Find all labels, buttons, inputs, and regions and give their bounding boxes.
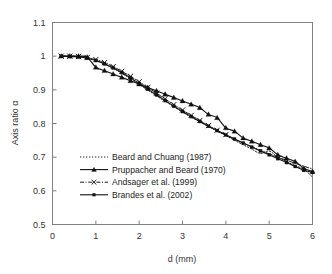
x-axis-title: d (mm) — [168, 254, 197, 264]
marker-square — [233, 137, 236, 140]
marker-square — [146, 87, 149, 90]
marker-square — [250, 145, 253, 148]
marker-square — [163, 99, 166, 102]
x-tick-label: 1 — [93, 231, 98, 241]
marker-square — [311, 171, 314, 174]
x-tick-label: 2 — [137, 231, 142, 241]
marker-square — [189, 115, 192, 118]
marker-square — [198, 120, 201, 123]
y-tick-label: 0.7 — [33, 152, 46, 162]
y-tick-label: 0.8 — [33, 119, 46, 129]
y-tick-label: 0.6 — [33, 186, 46, 196]
y-tick-label: 1 — [40, 51, 45, 61]
marker-square — [172, 104, 175, 107]
marker-square — [302, 169, 305, 172]
marker-square — [85, 56, 88, 59]
legend-label: Pruppacher and Beard (1970) — [112, 165, 226, 175]
marker-square — [293, 165, 296, 168]
marker-square — [94, 59, 97, 62]
marker-square — [68, 55, 71, 58]
marker-square — [276, 157, 279, 160]
marker-square — [224, 133, 227, 136]
marker-square — [59, 55, 62, 58]
marker-square — [92, 193, 95, 196]
marker-square — [285, 161, 288, 164]
chart-canvas: 0123456 0.50.60.70.80.911.1 d (mm) Axis … — [0, 0, 332, 274]
x-tick-label: 3 — [180, 231, 185, 241]
marker-square — [215, 129, 218, 132]
marker-square — [111, 66, 114, 69]
x-tick-label: 4 — [223, 231, 228, 241]
legend-label: Brandes et al. (2002) — [112, 190, 192, 200]
marker-square — [137, 82, 140, 85]
x-tick-label: 5 — [267, 231, 272, 241]
y-tick-label: 0.5 — [33, 220, 46, 230]
marker-square — [207, 124, 210, 127]
marker-square — [120, 71, 123, 74]
marker-square — [155, 93, 158, 96]
marker-square — [267, 153, 270, 156]
marker-square — [259, 149, 262, 152]
y-tick-label: 0.9 — [33, 85, 46, 95]
legend-label: Andsager et al. (1999) — [112, 177, 197, 187]
legend-label: Beard and Chuang (1987) — [112, 152, 212, 162]
x-tick-label: 0 — [50, 231, 55, 241]
marker-square — [241, 141, 244, 144]
x-tick-label: 6 — [310, 231, 315, 241]
y-tick-label: 1.1 — [33, 18, 46, 28]
chart-figure: 0123456 0.50.60.70.80.911.1 d (mm) Axis … — [0, 0, 332, 274]
marker-square — [103, 62, 106, 65]
marker-square — [77, 55, 80, 58]
marker-square — [181, 110, 184, 113]
marker-square — [129, 76, 132, 79]
y-axis-title: Axis ratio α — [10, 101, 20, 146]
